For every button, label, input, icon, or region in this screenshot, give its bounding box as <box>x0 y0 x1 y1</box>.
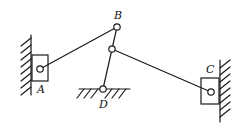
label-d: D <box>98 98 108 111</box>
link-e-c <box>112 49 211 92</box>
label-a: A <box>36 83 45 96</box>
mechanism-svg: A B C D <box>0 0 248 130</box>
mechanism-diagram: A B C D <box>0 0 248 130</box>
label-c: C <box>206 63 215 76</box>
pin-a <box>37 66 43 72</box>
link-ab <box>40 27 117 69</box>
pin-d <box>100 86 106 92</box>
link-e-d <box>103 49 112 89</box>
pin-e <box>109 46 115 52</box>
left-wall-guide <box>21 35 31 95</box>
label-b: B <box>113 9 122 22</box>
pin-c <box>208 89 214 95</box>
pin-b <box>114 24 120 30</box>
right-wall-guide <box>220 60 230 122</box>
